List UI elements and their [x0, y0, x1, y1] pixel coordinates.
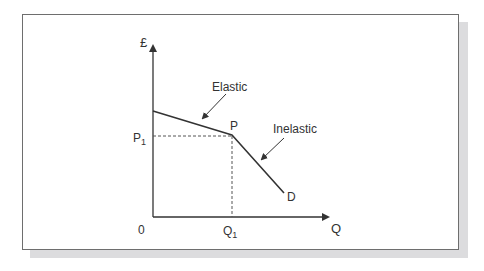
- demand-curve-label: D: [287, 190, 296, 204]
- inelastic-arrow-icon: [262, 138, 284, 159]
- y-axis-label: £: [140, 35, 148, 50]
- elastic-label: Elastic: [212, 80, 247, 94]
- quantity-label: Q1: [223, 224, 237, 240]
- elastic-arrow-icon: [203, 94, 226, 118]
- inelastic-label: Inelastic: [273, 122, 317, 136]
- kinked-demand-diagram: £ Q 0 P1 Q1 P D Elastic Inelastic: [0, 0, 484, 271]
- price-label: P1: [133, 131, 146, 147]
- kink-point-label: P: [230, 119, 238, 133]
- x-axis-label: Q: [331, 221, 341, 236]
- demand-curve: [153, 111, 284, 193]
- origin-label: 0: [138, 223, 145, 237]
